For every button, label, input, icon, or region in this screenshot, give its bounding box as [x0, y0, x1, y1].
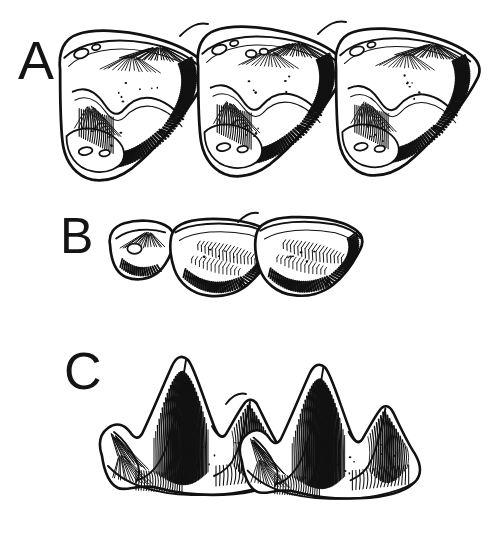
tooth — [60, 31, 207, 181]
panel-a-drawing — [0, 0, 497, 205]
tooth — [336, 29, 480, 176]
tooth — [198, 27, 345, 177]
tooth — [255, 217, 362, 296]
tooth — [110, 219, 276, 296]
panel-label-b: B — [60, 211, 93, 261]
panel-label-a: A — [18, 33, 54, 87]
figure-root: A B C — [0, 0, 497, 536]
panel-label-c: C — [64, 345, 102, 397]
panel-a — [0, 0, 497, 205]
